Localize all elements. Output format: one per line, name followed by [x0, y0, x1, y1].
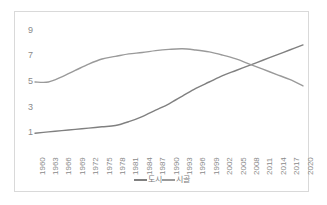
legend-color-swatch: [162, 179, 175, 181]
x-axis: 1960196319661969197219751978198119841987…: [15, 12, 308, 191]
x-axis-tick-label: 1999: [213, 157, 221, 175]
x-axis-tick-label: 1981: [132, 157, 140, 175]
legend-color-swatch: [134, 179, 147, 181]
legend-label: 시골: [176, 175, 190, 185]
legend-item[interactable]: 시골: [162, 175, 190, 185]
x-axis-tick-label: 1972: [92, 157, 100, 175]
x-axis-tick-label: 2020: [307, 157, 315, 175]
x-axis-tick-label: 2014: [280, 157, 288, 175]
x-axis-tick-label: 1996: [199, 157, 207, 175]
plot-area: 97531 1960196319661969197219751978198119…: [15, 12, 308, 191]
x-axis-tick-label: 2002: [226, 157, 234, 175]
x-axis-tick-label: 1978: [119, 157, 127, 175]
x-axis-tick-label: 2017: [293, 157, 301, 175]
x-axis-tick-label: 1975: [106, 157, 114, 175]
x-axis-tick-label: 1960: [39, 157, 47, 175]
x-axis-tick-label: 2011: [266, 158, 274, 175]
x-axis-tick-label: 1993: [186, 157, 194, 175]
chart-frame: 97531 1960196319661969197219751978198119…: [14, 11, 309, 192]
chart-legend: 도시시골: [15, 175, 308, 185]
x-axis-tick-label: 1966: [65, 157, 73, 175]
x-axis-tick-label: 1990: [173, 157, 181, 175]
x-axis-tick-label: 1963: [52, 157, 60, 175]
x-axis-tick-label: 2005: [240, 157, 248, 175]
legend-item[interactable]: 도시: [134, 175, 162, 185]
legend-label: 도시: [148, 175, 162, 185]
x-axis-tick-label: 1987: [159, 157, 167, 175]
x-axis-tick-label: 1969: [79, 157, 87, 175]
x-axis-tick-label: 1984: [146, 157, 154, 175]
x-axis-tick-label: 2008: [253, 157, 261, 175]
